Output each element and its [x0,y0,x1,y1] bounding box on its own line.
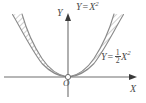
parabola-figure: Y=X2 Y=12X2 Y X O [0,0,146,103]
origin-label: O [63,79,70,88]
curve-y-equals-x-squared-left [22,14,67,77]
right-hatched-region [69,14,124,77]
label-curve-y-equals-x-squared: Y=X2 [76,1,99,12]
label-curve-y-equals-half-x-squared: Y=12X2 [101,49,131,66]
label-upper-exponent: 2 [95,0,98,7]
x-axis-arrowhead-icon [129,74,137,80]
fraction-numerator: 1 [115,49,121,57]
y-axis-label: Y [57,8,63,18]
label-lower-exponent: 2 [127,49,130,56]
y-axis-arrowhead-icon [65,13,71,21]
label-upper-var-y: Y [76,1,82,12]
label-upper-equals: = [83,1,89,12]
fraction-denominator: 2 [115,56,121,65]
curve-y-equals-x-squared-right [69,14,114,77]
x-axis-label: X [130,84,136,94]
label-lower-equals: = [108,51,114,62]
label-lower-fraction: 12 [115,49,121,66]
left-hatched-region [13,14,68,77]
label-lower-var-y: Y [101,51,107,62]
